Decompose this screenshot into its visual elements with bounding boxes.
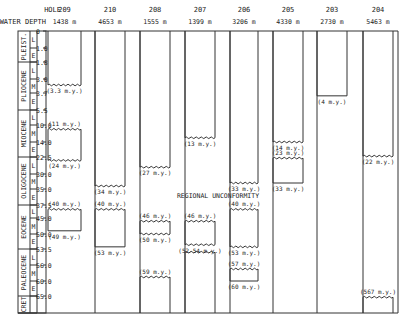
- unconformity-bottom: [48, 84, 81, 86]
- hole-id: 205: [282, 6, 295, 14]
- core-interval: (34 m.y.): [94, 31, 127, 196]
- core-interval: (59 m.y.): [139, 268, 172, 313]
- subdivision-label: L: [32, 36, 36, 44]
- interval-bottom-age: (33 m.y.): [272, 185, 305, 193]
- interval-bottom-age: (3.3 m.y.): [46, 87, 82, 95]
- core-interval: (11 m.y.)(24 m.y.): [48, 120, 81, 170]
- hole-water-depth: 5463 m: [366, 18, 390, 26]
- hole-id: 209: [58, 6, 71, 14]
- hole-203: 2032730 m(4 m.y.): [317, 6, 363, 313]
- water-depth-label: WATER DEPTH: [0, 18, 46, 26]
- hole-210: 2104653 m(34 m.y.)(40 m.y.)(53 m.y.): [94, 6, 140, 313]
- subdivision-label: E: [32, 238, 36, 246]
- interval-top-age: (46 m.y.): [139, 212, 172, 220]
- interval-bottom-age: (34 m.y.): [94, 188, 127, 196]
- hole-207: 2071399 m(13 m.y.)(46 m.y.)(52-54 m.y.): [178, 6, 230, 313]
- scale-tick-label: 5.5: [36, 107, 48, 115]
- epoch-label: PLEIST.: [20, 33, 28, 60]
- hole-id: 203: [326, 6, 339, 14]
- interval-bottom-age: (13 m.y.): [184, 140, 217, 148]
- unconformity-top: [140, 220, 170, 222]
- scale-tick-label: 65.0: [36, 293, 52, 301]
- scale-tick-label: 60.0: [36, 278, 52, 286]
- core-interval: (567 m.y.): [360, 288, 396, 313]
- interval-top-age: (567 m.y.): [360, 288, 396, 296]
- unconformity-bottom: [185, 137, 215, 139]
- scale-tick-label: 30.0: [36, 171, 52, 179]
- subdivision-label: E: [32, 285, 36, 293]
- scale-tick-label: 1.8: [36, 59, 48, 67]
- interval-bottom-age: (49 m.y.): [48, 233, 81, 241]
- core-interval: [185, 251, 215, 313]
- scale-tick-label: 3.0: [36, 76, 48, 84]
- scale-tick-label: 35.0: [36, 186, 52, 194]
- hole-id: 208: [149, 6, 162, 14]
- core-interval: (40 m.y.)(53 m.y.): [94, 200, 127, 257]
- interval-top-age: (11 m.y.): [48, 120, 81, 128]
- unconformity-top: [140, 276, 170, 278]
- subdivision-label: L: [32, 208, 36, 216]
- interval-top-age: (46 m.y.): [184, 212, 217, 220]
- subdivision-label: L: [32, 114, 36, 122]
- subdivision-label: E: [32, 52, 36, 60]
- interval-top-age: (59 m.y.): [139, 268, 172, 276]
- core-interval: (57 m.y.)(60 m.y.): [228, 260, 261, 291]
- epoch-label: CRET: [20, 297, 28, 313]
- interval-bottom-age: (24 m.y.): [48, 162, 81, 170]
- unconformity-bottom: [230, 246, 258, 248]
- interval-bottom-age: (50 m.y.): [139, 236, 172, 244]
- unconformity-top: [273, 157, 303, 159]
- hole-206: 2063206 m(33 m.y.)(40 m.y.)(53 m.y.)(57 …: [228, 6, 273, 313]
- scale-tick-label: 22.5: [36, 154, 52, 162]
- scale-tick-label: 14.0: [36, 139, 52, 147]
- core-interval: (13 m.y.): [184, 31, 217, 148]
- interval-top-age: (40 m.y.): [94, 200, 127, 208]
- unconformity-bottom: [363, 155, 393, 157]
- scale-tick-label: 56.0: [36, 262, 52, 270]
- unconformity-top: [48, 209, 81, 211]
- subdivision-label: M: [32, 130, 36, 138]
- subdivision-label: M: [32, 270, 36, 278]
- unconformity-bottom: [140, 166, 170, 168]
- subdivision-label: E: [32, 194, 36, 202]
- unconformity-top: [230, 209, 258, 211]
- scale-tick-label: 53.5: [36, 246, 52, 254]
- hole-water-depth: 4653 m: [98, 18, 122, 26]
- subdivision-label: L: [32, 162, 36, 170]
- epoch-label: PALEOCENE: [20, 255, 28, 290]
- hole-205: 2054330 m(14 m.y.)(23 m.y.)(33 m.y.): [272, 6, 317, 313]
- interval-bottom-age: (22 m.y.): [362, 158, 395, 166]
- interval-bottom-age: (4 m.y.): [318, 98, 347, 106]
- unconformity-top: [185, 220, 215, 222]
- core-interval: (46 m.y.)(52-54 m.y.): [178, 212, 221, 255]
- unconformity-bottom: [48, 160, 81, 162]
- scale-tick-label: 45.0: [36, 215, 52, 223]
- interval-bottom-age: (53 m.y.): [94, 249, 127, 257]
- interval-top-age: (57 m.y.): [228, 260, 261, 268]
- hole-204: 2045463 m(22 m.y.)(567 m.y.): [360, 6, 398, 313]
- interval-top-age: (23 m.y.): [272, 149, 305, 157]
- subdivision-label: M: [32, 178, 36, 186]
- unconformity-top: [230, 268, 258, 270]
- hole-id: 207: [194, 6, 207, 14]
- unconformity-bottom: [273, 141, 303, 143]
- unconformity-bottom: [185, 244, 215, 246]
- interval-bottom-age: (27 m.y.): [139, 169, 172, 177]
- core-interval: (22 m.y.): [362, 31, 395, 166]
- core-interval: (33 m.y.): [228, 31, 261, 193]
- regional-unconformity-label: REGIONAL UNCONFORMITY: [177, 192, 259, 200]
- interval-top-age: (40 m.y.): [228, 200, 261, 208]
- hole-water-depth: 1399 m: [188, 18, 212, 26]
- subdivision-label: L: [32, 254, 36, 262]
- hole-id: 206: [238, 6, 251, 14]
- hole-208: 2081555 m(27 m.y.)(46 m.y.)(50 m.y.)(59 …: [139, 6, 185, 313]
- subdivision-label: M: [32, 223, 36, 231]
- hole-water-depth: 2730 m: [320, 18, 344, 26]
- unconformity-top: [48, 128, 81, 130]
- hole-209: 2091438 m(3.3 m.y.)(11 m.y.)(24 m.y.)(40…: [46, 6, 95, 313]
- age-axis: PLEIST.LEPLIOCENELMEMIOCENELMEOLIGOCENEL…: [18, 28, 398, 314]
- core-interval: (3.3 m.y.): [46, 31, 82, 95]
- subdivision-label: E: [32, 146, 36, 154]
- subdivision-label: L: [32, 67, 36, 75]
- hole-water-depth: 4330 m: [276, 18, 300, 26]
